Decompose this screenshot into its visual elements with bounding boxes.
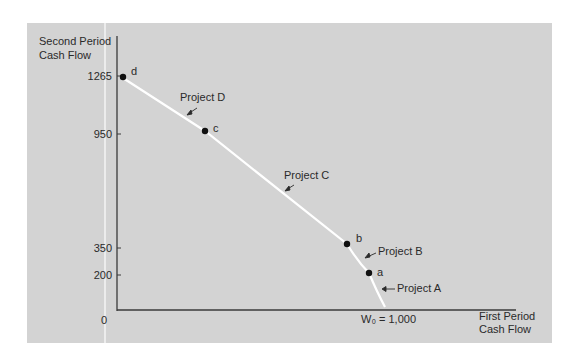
y-axis-title-line2: Cash Flow <box>39 49 91 61</box>
y-tick-200: 200 <box>94 269 112 281</box>
point-b <box>344 241 350 247</box>
y-tick-1265: 1265 <box>88 70 112 82</box>
label-project-a: Project A <box>397 282 442 294</box>
point-d <box>120 74 126 80</box>
label-project-d: Project D <box>180 91 225 103</box>
point-label-c: c <box>213 122 219 134</box>
label-project-c: Project C <box>284 169 329 181</box>
y-tick-350: 350 <box>94 242 112 254</box>
x-axis-title-line1: First Period <box>479 310 535 322</box>
y-axis-title-line1: Second Period <box>39 35 111 47</box>
point-label-a: a <box>377 266 384 278</box>
point-a <box>366 270 372 276</box>
point-c <box>202 128 208 134</box>
label-project-b: Project B <box>378 245 423 257</box>
point-label-b: b <box>356 232 362 244</box>
x-annotation-w0: W₀ = 1,000 <box>361 313 416 325</box>
point-label-d: d <box>131 65 137 77</box>
y-tick-0: 0 <box>101 314 107 326</box>
investment-opportunity-curve <box>123 78 385 307</box>
x-axis-title-line2: Cash Flow <box>479 323 531 335</box>
y-tick-950: 950 <box>94 128 112 140</box>
chart-svg: Second Period Cash Flow 1265 950 350 200… <box>0 0 573 359</box>
